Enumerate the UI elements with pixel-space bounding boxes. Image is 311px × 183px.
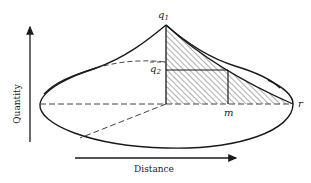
cone-left-surface: [44, 25, 166, 94]
m-label: m: [224, 107, 233, 118]
distance-axis-label: Distance: [134, 164, 174, 174]
r-label: r: [298, 98, 304, 109]
distance-axis: Distance: [75, 158, 236, 174]
q2-label: q2: [150, 63, 161, 76]
q1-label: q1: [158, 9, 169, 22]
base-radius-dashed: [80, 104, 166, 138]
quantity-axis: Quantity: [12, 27, 30, 142]
quantity-axis-label: Quantity: [12, 83, 22, 123]
cone-diagram: Quantity Distance q1 q2 m r: [0, 0, 311, 183]
